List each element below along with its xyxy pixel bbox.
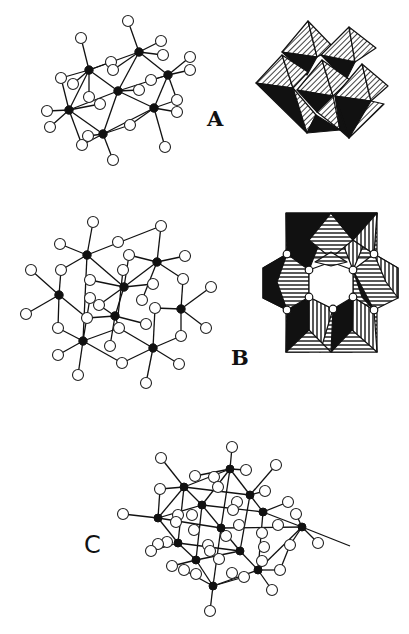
panel-label-b: B xyxy=(231,347,249,368)
panel-b-polyhedra xyxy=(263,213,398,352)
panel-a-ball-stick xyxy=(42,16,196,166)
figure-canvas xyxy=(0,0,409,634)
panel-c-ball-stick xyxy=(118,442,351,617)
panel-b-ball-stick xyxy=(21,217,217,389)
panel-a-polyhedra xyxy=(256,21,388,138)
panel-label-c: C xyxy=(84,533,101,557)
panel-label-a: A xyxy=(207,108,223,129)
